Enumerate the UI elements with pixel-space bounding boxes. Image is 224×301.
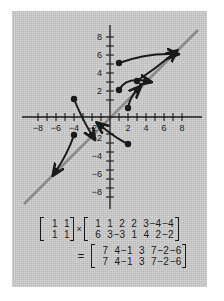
matrix-b-cell: 3 [137, 218, 149, 229]
matrix-b-cell: 1 [125, 229, 137, 240]
matrix-result-cell: 7 [96, 245, 108, 256]
point-2-1 [125, 105, 131, 111]
matrix-a-cell: 1 [57, 218, 69, 229]
equation-line-result: = 7 4 −1 3 7 −2 −6 7 4 −1 3 7 −2 [32, 244, 188, 268]
xtick-label: 2 [125, 123, 130, 133]
matrix-b-row: 1 1 2 2 3 −4 −4 [89, 218, 174, 229]
matrix-result-cell: −2 [157, 256, 169, 267]
multiplication-sign: × [75, 224, 82, 234]
matrix-result-row: 7 4 −1 3 7 −2 −6 [96, 256, 181, 267]
matrix-a: 1 1 1 1 [40, 217, 74, 241]
matrix-result-cell: 7 [145, 256, 157, 267]
matrix-b-cell: −4 [149, 218, 161, 229]
xtick-label: −6 [51, 123, 61, 133]
matrix-result-row: 7 4 −1 3 7 −2 −6 [96, 245, 181, 256]
matrix-b-row: 6 3 −3 1 4 2 −2 [89, 229, 174, 240]
ytick-label: 8 [97, 32, 102, 42]
ytick-label: 4 [97, 68, 102, 78]
matrix-result-cell: −1 [120, 245, 132, 256]
ytick-label: −8 [92, 187, 102, 197]
point-2-neg3 [125, 141, 131, 147]
matrix-result-cell: 4 [108, 256, 120, 267]
xtick-label: −8 [33, 123, 43, 133]
matrix-b-cell: 2 [149, 229, 161, 240]
matrix-a-cell: 1 [57, 229, 69, 240]
matrix-result-cell: 3 [133, 256, 145, 267]
equals-sign: = [78, 250, 90, 262]
matrix-result-cell: −6 [169, 245, 181, 256]
matrix-result-cell: −2 [157, 245, 169, 256]
matrix-b-cell: 1 [89, 218, 101, 229]
figure-panel: −8 −6 −4 −2 2 4 6 8 8 6 4 2 −2 −4 −6 −8 [12, 11, 207, 287]
matrix-result-cell: 4 [108, 245, 120, 256]
matrix-a-row: 1 1 [45, 229, 69, 240]
xtick-label: −4 [69, 123, 79, 133]
ytick-label: 6 [97, 50, 102, 60]
matrix-result-cell: −6 [169, 256, 181, 267]
point-7-7 [170, 51, 176, 57]
point-neg4-neg2 [71, 132, 77, 138]
matrix-a-row: 1 1 [45, 218, 69, 229]
arrow-3-4-to-7-7 [137, 54, 173, 81]
xtick-label: 8 [179, 123, 184, 133]
ytick-label: −4 [92, 151, 102, 161]
matrix-b-cell: 6 [89, 229, 101, 240]
matrix-b-cell: −2 [161, 229, 173, 240]
matrix-b-cell: 1 [101, 218, 113, 229]
ytick-label: 2 [97, 86, 102, 96]
point-neg2-neg2 [89, 132, 95, 138]
point-1-6 [116, 60, 122, 66]
equation-line-product: 1 1 1 1 × 1 1 2 2 3 −4 −4 [39, 217, 179, 241]
point-neg1-neg1 [98, 123, 104, 129]
matrix-result-cell: 7 [96, 256, 108, 267]
matrix-b-cell: 2 [125, 218, 137, 229]
matrix-b: 1 1 2 2 3 −4 −4 6 3 −3 1 4 2 −2 [84, 217, 179, 241]
matrix-b-cell: 2 [113, 218, 125, 229]
point-3-3 [134, 87, 140, 93]
xtick-label: 4 [143, 123, 148, 133]
matrix-a-cell: 1 [45, 218, 57, 229]
ytick-label: −6 [92, 169, 102, 179]
matrix-b-cell: −3 [113, 229, 125, 240]
matrix-equation: 1 1 1 1 × 1 1 2 2 3 −4 −4 [12, 214, 207, 287]
point-neg6-neg6 [53, 168, 59, 174]
matrix-result-cell: 7 [145, 245, 157, 256]
point-neg4-2 [71, 96, 77, 102]
matrix-b-cell: 4 [137, 229, 149, 240]
matrix-a-cell: 1 [45, 229, 57, 240]
plot-svg: −8 −6 −4 −2 2 4 6 8 8 6 4 2 −2 −4 −6 −8 [12, 11, 207, 216]
arrow-neg4-neg2-to-neg6-neg6 [56, 135, 74, 171]
point-4-4 [143, 78, 149, 84]
scatter-plot: −8 −6 −4 −2 2 4 6 8 8 6 4 2 −2 −4 −6 −8 [12, 11, 207, 216]
matrix-result: 7 4 −1 3 7 −2 −6 7 4 −1 3 7 −2 −6 [91, 244, 186, 268]
matrix-b-cell: 3 [101, 229, 113, 240]
matrix-result-cell: 3 [133, 245, 145, 256]
matrix-result-cell: −1 [120, 256, 132, 267]
arrow-2-neg3-to-neg1-neg1 [101, 126, 128, 144]
point-3-4 [134, 78, 140, 84]
matrix-b-cell: −4 [161, 218, 173, 229]
point-1-3 [116, 87, 122, 93]
xtick-label: 6 [161, 123, 166, 133]
